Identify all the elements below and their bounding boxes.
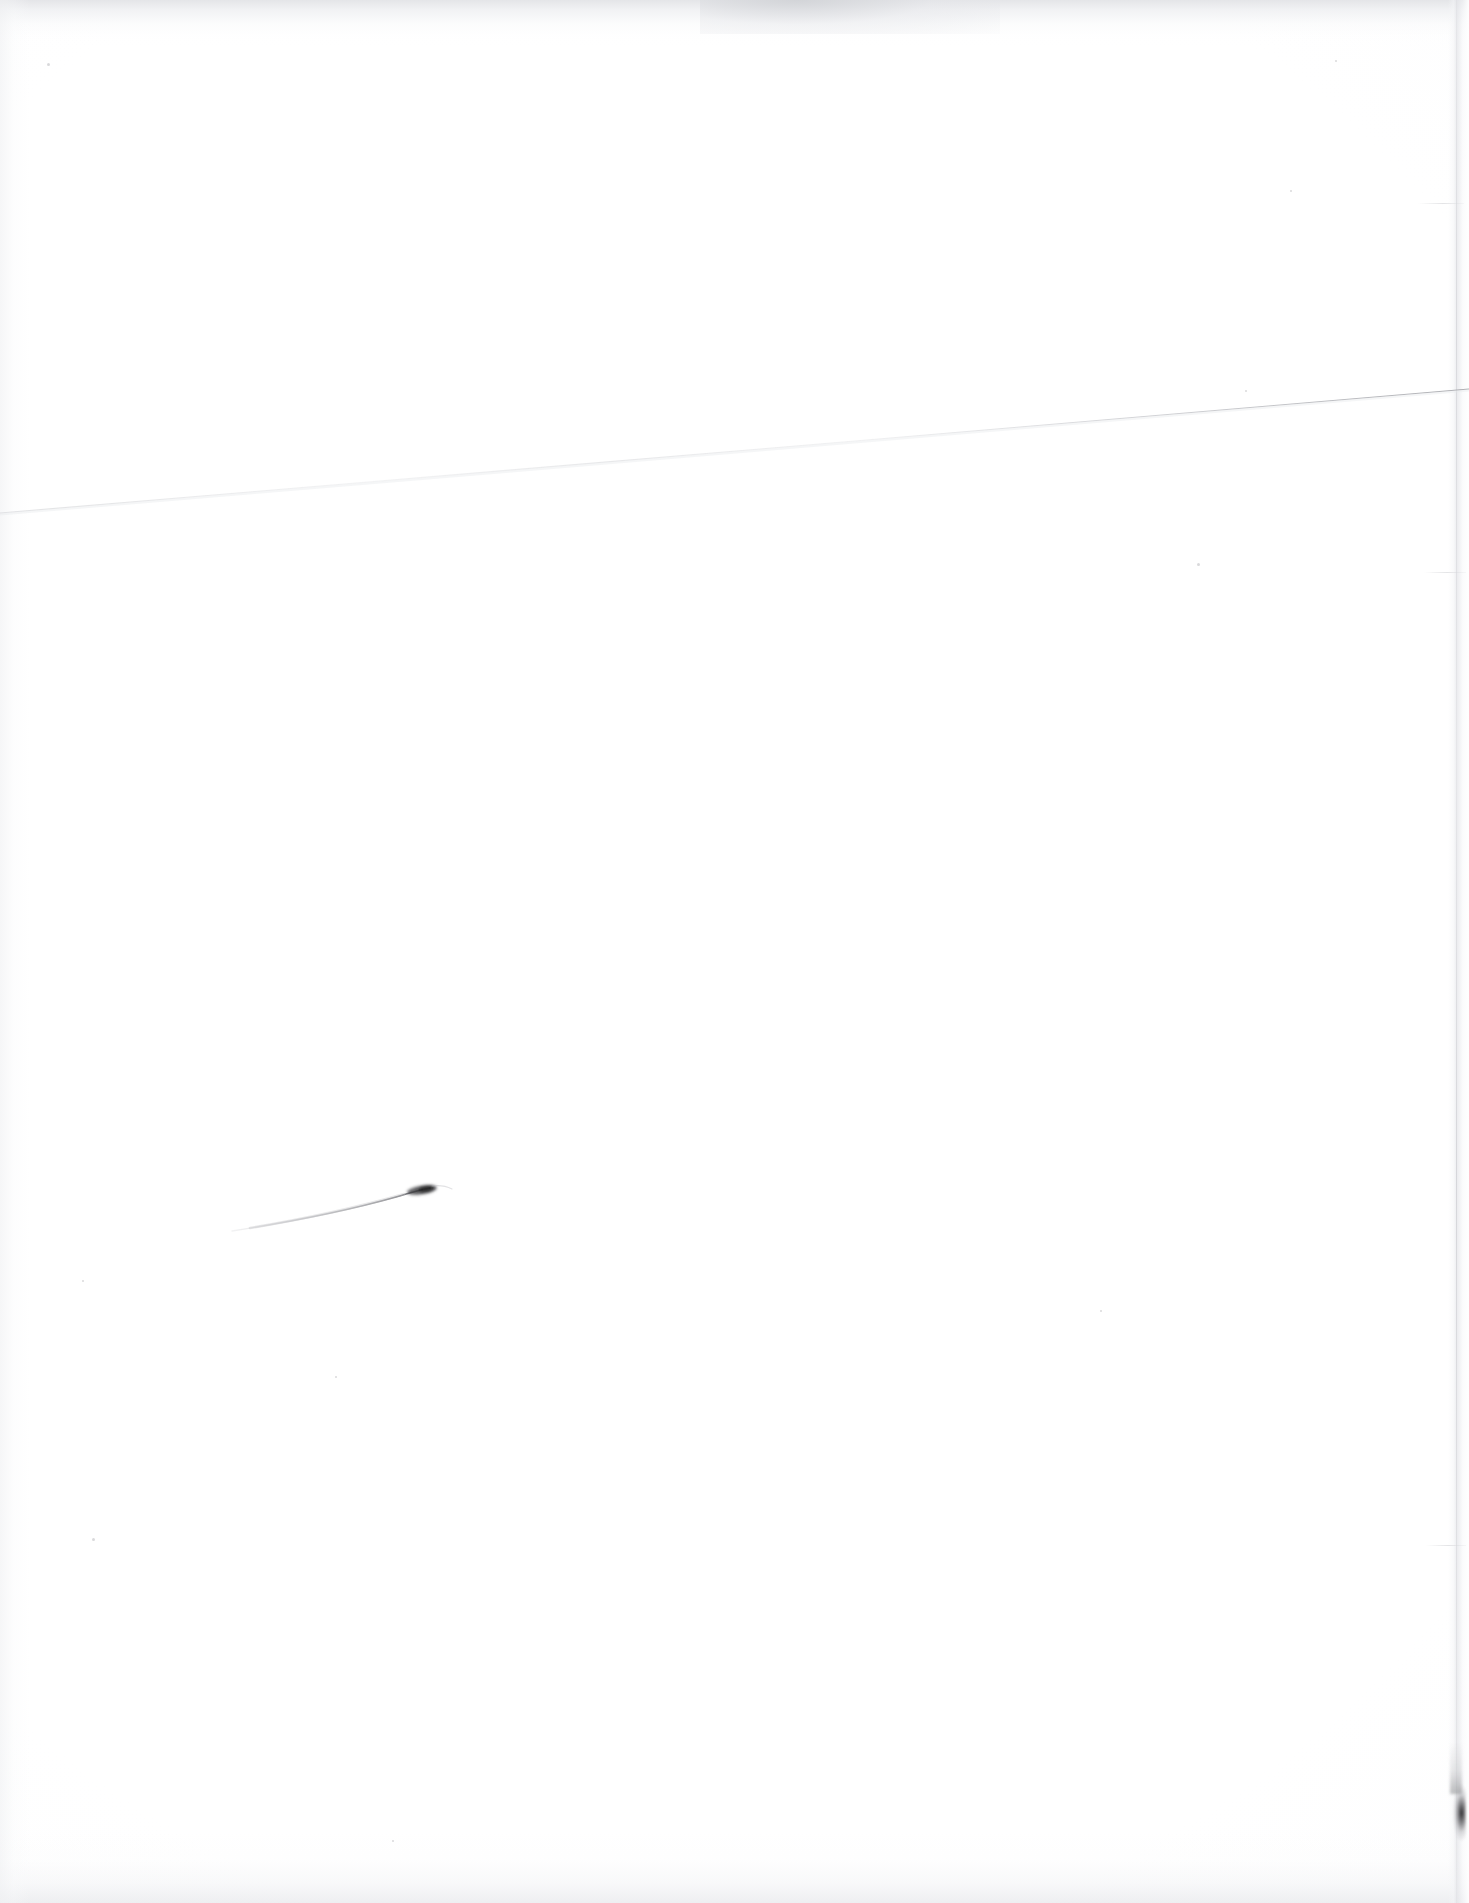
paper-sheet: [0, 0, 1469, 1903]
scanned-page: [0, 0, 1469, 1903]
